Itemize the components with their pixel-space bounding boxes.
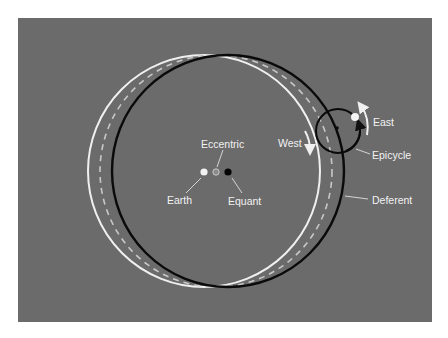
epicycle-arrow-icon — [346, 124, 360, 151]
equant-label: Equant — [228, 195, 261, 207]
east-arrow-icon — [361, 106, 368, 135]
epicycle-leader-line — [356, 149, 370, 154]
epicycle-center-point — [335, 126, 339, 130]
epicycle-label: Epicycle — [372, 149, 411, 161]
earth-point — [200, 168, 207, 175]
equant-leader-line — [232, 178, 242, 193]
eccentric-label: Eccentric — [201, 138, 244, 150]
ptolemaic-model-diagram: Eccentric Earth Equant West East Epicycl… — [0, 0, 448, 338]
east-label: East — [373, 116, 394, 128]
earth-leader-line — [186, 178, 201, 193]
planet-point — [351, 113, 359, 121]
equant-point — [224, 168, 231, 175]
west-arrow-icon — [305, 131, 310, 150]
eccentric-leader-line — [217, 150, 223, 167]
deferent-label: Deferent — [372, 194, 412, 206]
earth-label: Earth — [167, 194, 192, 206]
west-label: West — [278, 137, 302, 149]
eccentric-point — [213, 169, 219, 175]
deferent-leader-line — [345, 196, 368, 199]
